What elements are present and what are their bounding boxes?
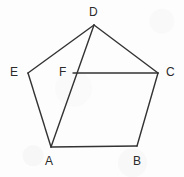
vertex-label-e: E (10, 66, 18, 78)
vertex-label-f: F (59, 66, 66, 78)
vertex-label-c: C (166, 66, 175, 78)
segment-ab (51, 146, 137, 147)
vertex-label-a: A (45, 155, 53, 167)
segment-bc (137, 73, 158, 146)
segment-da-diagonal (51, 25, 94, 147)
pentagon-outline (28, 25, 158, 147)
pentagon-diagram-svg (0, 0, 184, 177)
geometry-figure: D E F C A B (0, 0, 184, 177)
vertex-label-d: D (89, 6, 98, 18)
segment-ea (28, 73, 51, 147)
vertex-label-b: B (133, 155, 141, 167)
segment-cd (94, 25, 158, 73)
